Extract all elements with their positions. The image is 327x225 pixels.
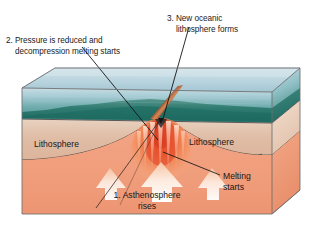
callout-pressure-line2: decompression melting starts [6,47,120,57]
label-melting-line1: Melting [223,171,251,182]
callout-pressure-line1: 2. Pressure is reduced and [6,36,103,45]
label-lithosphere-right: Lithosphere [189,137,234,147]
callout-pressure-decompression: 2. Pressure is reduced and decompression… [6,26,120,68]
label-lithosphere-left: Lithosphere [34,139,79,149]
label-asthen-line1: 1. Asthenosphere [92,190,202,201]
callout-new-oceanic-lithosphere: 3. New oceanic lithosphere forms [167,4,238,46]
label-asthen-line2: rises [92,201,202,212]
callout-newlitho-line2: lithosphere forms [167,25,238,35]
label-melting-line2: starts [223,182,251,193]
label-melting-starts: Melting starts [223,171,251,192]
figure-canvas: 2. Pressure is reduced and decompression… [0,0,327,225]
callout-newlitho-line1: 3. New oceanic [167,14,222,23]
label-asthenosphere-rises: 1. Asthenosphere rises [92,190,202,211]
